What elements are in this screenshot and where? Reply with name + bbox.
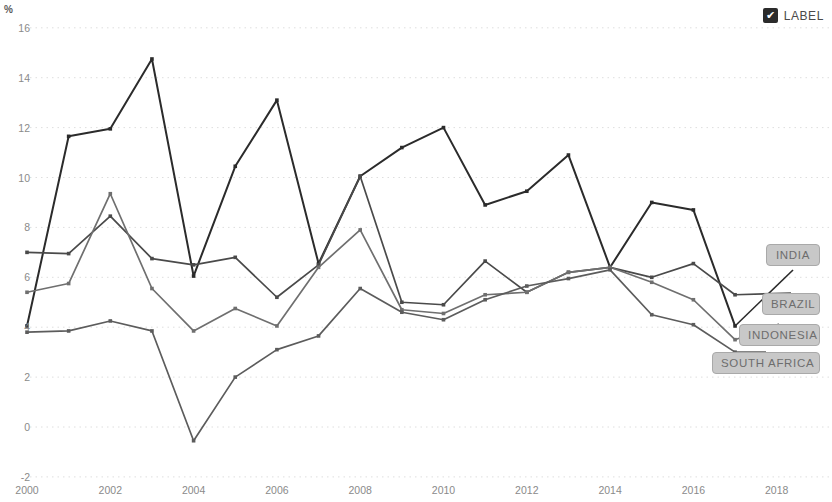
data-point[interactable]	[275, 348, 279, 352]
x-tick-label: 2012	[515, 484, 538, 496]
x-tick-label: 2014	[598, 484, 621, 496]
data-point[interactable]	[109, 319, 113, 323]
x-tick-label: 2006	[265, 484, 288, 496]
data-point[interactable]	[525, 284, 529, 288]
x-tick-label: 2004	[182, 484, 205, 496]
series-india	[25, 57, 737, 328]
data-point[interactable]	[692, 323, 696, 327]
plot-area	[0, 0, 832, 502]
data-point[interactable]	[567, 153, 571, 157]
data-point[interactable]	[275, 295, 279, 299]
x-tick-label: 2010	[432, 484, 455, 496]
data-point[interactable]	[650, 276, 654, 280]
x-tick-label: 2008	[349, 484, 372, 496]
data-point[interactable]	[525, 189, 529, 193]
data-point[interactable]	[400, 300, 404, 304]
y-tick-label: 4	[0, 321, 30, 333]
data-point[interactable]	[650, 313, 654, 317]
data-point[interactable]	[567, 277, 571, 281]
data-point[interactable]	[650, 280, 654, 284]
y-tick-label: 2	[0, 371, 30, 383]
data-point[interactable]	[67, 282, 71, 286]
data-point[interactable]	[275, 98, 279, 102]
data-point[interactable]	[442, 318, 446, 322]
x-tick-label: 2018	[765, 484, 788, 496]
data-point[interactable]	[275, 324, 279, 328]
data-point[interactable]	[67, 135, 71, 139]
data-point[interactable]	[567, 271, 571, 275]
y-tick-label: 6	[0, 271, 30, 283]
data-point[interactable]	[483, 203, 487, 207]
data-point[interactable]	[233, 375, 237, 379]
x-tick-label: 2000	[15, 484, 38, 496]
checkmark-icon[interactable]: ✔	[763, 8, 778, 23]
data-point[interactable]	[442, 126, 446, 130]
data-point[interactable]	[25, 290, 29, 294]
series-brazil	[25, 174, 737, 306]
x-tick-label: 2016	[682, 484, 705, 496]
indonesia-label[interactable]: INDONESIA	[739, 324, 820, 346]
data-point[interactable]	[317, 334, 321, 338]
y-tick-label: -2	[0, 471, 30, 483]
data-point[interactable]	[192, 274, 196, 278]
data-point[interactable]	[150, 257, 154, 261]
legend[interactable]: ✔ LABEL	[763, 8, 824, 23]
data-point[interactable]	[233, 164, 237, 168]
brazil-label[interactable]: BRAZIL	[762, 293, 820, 315]
y-tick-label: 12	[0, 122, 30, 134]
gridlines	[30, 28, 830, 477]
data-point[interactable]	[400, 146, 404, 150]
india-label[interactable]: INDIA	[766, 244, 820, 266]
data-point[interactable]	[608, 268, 612, 272]
line-chart: % 1614121086420-2 2000200220042006200820…	[0, 0, 832, 502]
data-point[interactable]	[150, 287, 154, 291]
data-point[interactable]	[150, 57, 154, 61]
data-point[interactable]	[400, 310, 404, 314]
series-south-africa	[25, 268, 737, 443]
y-tick-label: 16	[0, 22, 30, 34]
data-point[interactable]	[692, 298, 696, 302]
y-tick-label: 8	[0, 221, 30, 233]
data-point[interactable]	[442, 303, 446, 307]
data-point[interactable]	[67, 252, 71, 256]
series-indonesia	[25, 192, 737, 342]
data-point[interactable]	[358, 287, 362, 291]
data-point[interactable]	[109, 127, 113, 131]
data-point[interactable]	[192, 263, 196, 267]
data-point[interactable]	[109, 192, 113, 196]
legend-label: LABEL	[784, 9, 824, 23]
data-point[interactable]	[692, 208, 696, 212]
data-point[interactable]	[233, 256, 237, 260]
data-point[interactable]	[650, 201, 654, 205]
south-africa-label[interactable]: SOUTH AFRICA	[712, 352, 820, 374]
y-tick-label: 10	[0, 172, 30, 184]
data-point[interactable]	[67, 329, 71, 333]
data-point[interactable]	[25, 251, 29, 255]
data-point[interactable]	[358, 228, 362, 232]
y-tick-label: 14	[0, 72, 30, 84]
data-point[interactable]	[483, 298, 487, 302]
x-tick-label: 2002	[99, 484, 122, 496]
data-point[interactable]	[483, 259, 487, 263]
data-point[interactable]	[109, 214, 113, 218]
data-point[interactable]	[233, 307, 237, 311]
data-point[interactable]	[358, 174, 362, 178]
data-point[interactable]	[692, 262, 696, 266]
data-point[interactable]	[317, 266, 321, 270]
data-point[interactable]	[442, 312, 446, 316]
data-point[interactable]	[150, 329, 154, 333]
data-point[interactable]	[192, 329, 196, 333]
y-tick-label: 0	[0, 421, 30, 433]
data-point[interactable]	[192, 439, 196, 443]
data-point[interactable]	[483, 293, 487, 297]
data-point[interactable]	[525, 290, 529, 294]
